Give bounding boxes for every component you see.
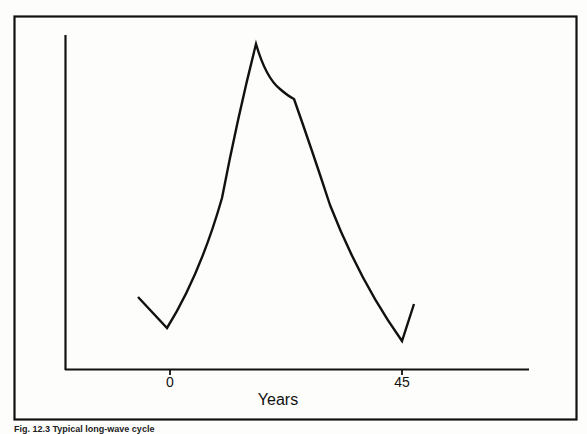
cycle-curve: [138, 44, 414, 341]
figure-caption: Fig. 12.3 Typical long-wave cycle: [14, 425, 154, 434]
x-tick-label-45: 45: [394, 375, 410, 389]
x-axis-title: Years: [258, 392, 298, 408]
figure-frame: [15, 17, 577, 420]
x-tick-label-0: 0: [166, 375, 174, 389]
